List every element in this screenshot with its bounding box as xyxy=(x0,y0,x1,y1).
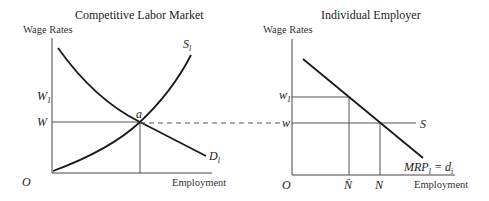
mrp-demand-line xyxy=(303,59,423,158)
demand-curve xyxy=(58,48,206,156)
right-origin-label: O xyxy=(282,178,291,192)
right-panel-title: Individual Employer xyxy=(321,8,421,22)
n-bar-label: N̄ xyxy=(343,178,353,192)
left-panel-title: Competitive Labor Market xyxy=(75,8,204,22)
mrp-label: MRPl = di xyxy=(403,160,453,176)
left-y-axis-label: Wage Rates xyxy=(23,24,73,35)
right-y-axis-label: Wage Rates xyxy=(263,24,313,35)
right-w-label: w xyxy=(282,116,290,130)
demand-curve-label: Dl xyxy=(208,149,221,165)
competitive-labor-market-panel: Competitive Labor Market Wage Rates O Em… xyxy=(22,8,226,189)
right-x-axis-label: Employment xyxy=(414,179,468,190)
n-label: N xyxy=(374,178,384,192)
right-w1-label: w1 xyxy=(279,88,291,104)
left-w-label: W xyxy=(37,115,48,129)
supply-curve-label: Sl xyxy=(183,37,192,53)
supply-curve xyxy=(53,55,191,171)
left-origin-label: O xyxy=(22,175,31,189)
left-w1-label: W1 xyxy=(37,89,51,105)
equilibrium-point-label: a xyxy=(136,107,142,121)
firm-supply-label: S xyxy=(420,117,426,131)
individual-employer-panel: Individual Employer Wage Rates O Employm… xyxy=(263,8,468,192)
left-x-axis-label: Employment xyxy=(172,177,226,188)
labor-market-diagram: Competitive Labor Market Wage Rates O Em… xyxy=(0,0,489,201)
